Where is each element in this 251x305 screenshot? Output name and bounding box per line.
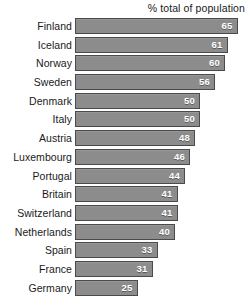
bar-value-label: 50 [184, 112, 195, 125]
bar-category-label: Italy [0, 111, 72, 127]
bar-value-label: 60 [209, 56, 220, 69]
axis-header-label: % total of population [0, 1, 245, 15]
bar[interactable]: 50 [75, 93, 200, 109]
bar-row: Austria48 [0, 130, 251, 149]
bar-value-label: 56 [199, 75, 210, 88]
bar-value-label: 48 [179, 131, 190, 144]
bar-category-label: Norway [0, 55, 72, 71]
bar-track: 33 [75, 242, 158, 258]
bar-category-label: Luxembourg [0, 149, 72, 165]
bar[interactable]: 41 [75, 186, 178, 202]
bar-row: Netherlands40 [0, 224, 251, 243]
bar[interactable]: 60 [75, 55, 225, 71]
bar[interactable]: 65 [75, 18, 238, 34]
bar[interactable]: 48 [75, 130, 195, 146]
bar[interactable]: 41 [75, 205, 178, 221]
bar-category-label: Netherlands [0, 224, 72, 240]
bar-category-label: Britain [0, 186, 72, 202]
bar[interactable]: 40 [75, 224, 175, 240]
bar-rows-container: Finland65Iceland61Norway60Sweden56Denmar… [0, 18, 251, 298]
bar-value-label: 41 [162, 187, 173, 200]
bar-row: Britain41 [0, 186, 251, 205]
bar-value-label: 61 [212, 38, 223, 51]
bar-track: 25 [75, 280, 138, 296]
bar-category-label: Finland [0, 18, 72, 34]
bar-row: Italy50 [0, 111, 251, 130]
bar-category-label: Denmark [0, 93, 72, 109]
bar-track: 41 [75, 186, 178, 202]
bar-row: Iceland61 [0, 37, 251, 56]
bar-value-label: 40 [159, 225, 170, 238]
bar[interactable]: 46 [75, 149, 190, 165]
bar-value-label: 25 [122, 281, 133, 294]
bar[interactable]: 31 [75, 261, 153, 277]
bar-row: Finland65 [0, 18, 251, 37]
bar-value-label: 44 [169, 169, 180, 182]
bar-track: 31 [75, 261, 153, 277]
bar-track: 60 [75, 55, 225, 71]
bar-row: Spain33 [0, 242, 251, 261]
bar-category-label: Austria [0, 130, 72, 146]
bar-value-label: 31 [137, 262, 148, 275]
bar-value-label: 41 [162, 206, 173, 219]
bar-row: Portugal44 [0, 168, 251, 187]
bar-row: Luxembourg46 [0, 149, 251, 168]
bar[interactable]: 25 [75, 280, 138, 296]
bar[interactable]: 33 [75, 242, 158, 258]
bar-value-label: 46 [174, 150, 185, 163]
bar-track: 50 [75, 111, 200, 127]
bar[interactable]: 61 [75, 37, 228, 53]
bar-category-label: Spain [0, 242, 72, 258]
bar-value-label: 33 [142, 243, 153, 256]
bar-track: 48 [75, 130, 195, 146]
bar-category-label: Iceland [0, 37, 72, 53]
bar-row: Germany25 [0, 280, 251, 299]
bar-value-label: 65 [222, 19, 233, 32]
bar-category-label: Germany [0, 280, 72, 296]
bar[interactable]: 56 [75, 74, 215, 90]
bar-track: 50 [75, 93, 200, 109]
bar-track: 44 [75, 168, 185, 184]
bar-row: France31 [0, 261, 251, 280]
bar-row: Switzerland41 [0, 205, 251, 224]
bar-track: 65 [75, 18, 238, 34]
bar[interactable]: 44 [75, 168, 185, 184]
bar-category-label: France [0, 261, 72, 277]
bar-category-label: Sweden [0, 74, 72, 90]
bar-track: 46 [75, 149, 190, 165]
bar-track: 61 [75, 37, 228, 53]
bar-category-label: Switzerland [0, 205, 72, 221]
bar-category-label: Portugal [0, 168, 72, 184]
bar-track: 40 [75, 224, 175, 240]
bar-value-label: 50 [184, 94, 195, 107]
bar-track: 56 [75, 74, 215, 90]
bar-chart: % total of population Finland65Iceland61… [0, 0, 251, 305]
bar-row: Norway60 [0, 55, 251, 74]
bar-row: Denmark50 [0, 93, 251, 112]
bar-row: Sweden56 [0, 74, 251, 93]
bar-track: 41 [75, 205, 178, 221]
bar[interactable]: 50 [75, 111, 200, 127]
